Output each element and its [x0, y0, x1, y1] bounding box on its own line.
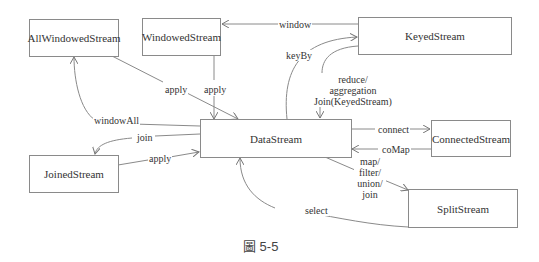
edge-label-window: window: [278, 19, 312, 30]
node-split-stream: SplitStream: [408, 189, 518, 228]
edge-label-apply-joined: apply: [148, 153, 172, 164]
node-label: DataStream: [250, 133, 302, 145]
edge-label-comap: coMap: [381, 144, 411, 155]
edge-label-connect: connect: [377, 124, 410, 135]
edge-label-apply-windowed: apply: [203, 84, 227, 95]
edge-label-apply-all-windowed: apply: [164, 84, 188, 95]
node-data-stream: DataStream: [200, 119, 352, 158]
node-windowed-stream: WindowedStream: [142, 18, 221, 56]
node-label: KeyedStream: [405, 30, 465, 42]
edge-label-map-filter-union-join: map/ filter/ union/ join: [354, 156, 386, 200]
node-keyed-stream: KeyedStream: [358, 17, 512, 55]
node-connected-stream: ConnectedStream: [431, 120, 511, 157]
figure-caption: 圖 5-5: [243, 236, 278, 255]
edge-label-window-all: windowAll: [93, 115, 140, 126]
edge-label-select: select: [304, 205, 329, 216]
node-label: ConnectedStream: [432, 133, 510, 145]
node-label: JoinedStream: [44, 168, 104, 180]
node-joined-stream: JoinedStream: [29, 155, 119, 193]
edge-label-keyby: keyBy: [285, 50, 313, 61]
node-all-windowed-stream: AllWindowedStream: [29, 19, 119, 57]
node-label: WindowedStream: [142, 31, 221, 43]
node-label: SplitStream: [437, 203, 489, 215]
edge-label-reduce-aggregation: reduce/ aggregation Join(KeyedStream): [310, 74, 396, 107]
edge-label-join: join: [136, 132, 154, 143]
node-label: AllWindowedStream: [27, 32, 120, 44]
